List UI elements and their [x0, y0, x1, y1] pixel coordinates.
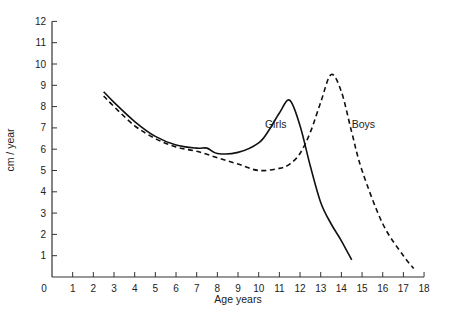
x-tick-label: 5	[153, 283, 159, 294]
x-tick-label: 7	[194, 283, 200, 294]
x-tick-label: 3	[111, 283, 117, 294]
y-tick-label: 9	[40, 80, 46, 91]
x-tick-label: 18	[418, 283, 430, 294]
x-tick-label: 6	[173, 283, 179, 294]
series-label-boys: Boys	[352, 118, 375, 130]
series-line-boys	[104, 74, 414, 268]
x-tick-label: 15	[356, 283, 368, 294]
x-tick-label: 16	[377, 283, 389, 294]
x-tick-label: 1	[70, 283, 76, 294]
y-tick-label: 11	[36, 37, 47, 48]
y-tick-label: 2	[40, 229, 46, 240]
axes: 1234567891011120123456789101112131415161…	[35, 16, 430, 294]
x-tick-label: 17	[398, 283, 410, 294]
growth-velocity-chart: 1234567891011120123456789101112131415161…	[0, 0, 456, 320]
y-tick-label: 6	[40, 144, 46, 155]
y-tick-label: 4	[40, 186, 46, 197]
y-tick-label: 8	[40, 101, 46, 112]
y-tick-label: 5	[40, 165, 46, 176]
y-tick-label: 1	[40, 250, 46, 261]
series-lines: GirlsBoys	[104, 74, 414, 268]
y-tick-label: 3	[40, 208, 46, 219]
y-tick-label: 10	[35, 59, 47, 70]
x-tick-label: 13	[315, 283, 327, 294]
series-label-girls: Girls	[265, 118, 287, 130]
series-line-girls	[104, 92, 352, 260]
x-tick-label: 0	[41, 283, 47, 294]
x-tick-label: 14	[336, 283, 348, 294]
y-tick-label: 12	[35, 16, 47, 27]
x-tick-label: 11	[274, 283, 285, 294]
y-axis-label: cm / year	[4, 128, 16, 172]
y-tick-label: 7	[40, 122, 46, 133]
x-tick-label: 2	[91, 283, 97, 294]
x-tick-label: 12	[294, 283, 306, 294]
x-tick-label: 4	[132, 283, 138, 294]
x-axis-label: Age years	[214, 293, 261, 305]
